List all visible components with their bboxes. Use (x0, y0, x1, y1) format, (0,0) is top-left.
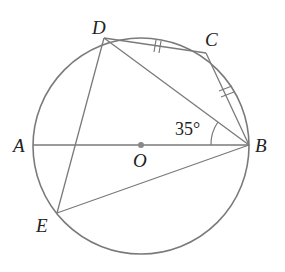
geometry-diagram: A B C D E O 35° (0, 0, 285, 272)
label-o: O (133, 150, 147, 171)
angle-label: 35° (175, 119, 200, 139)
chord-de (57, 38, 104, 213)
label-c: C (205, 29, 218, 50)
label-b: B (255, 135, 267, 156)
angle-arc-b (211, 122, 218, 145)
label-d: D (91, 17, 106, 38)
label-e: E (35, 215, 48, 236)
label-a: A (11, 135, 25, 156)
chord-eb (57, 145, 249, 213)
center-dot (138, 142, 144, 148)
chord-cb (206, 53, 249, 145)
